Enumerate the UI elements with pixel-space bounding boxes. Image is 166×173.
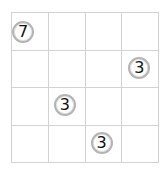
cell-r3-c3[interactable] bbox=[121, 125, 158, 163]
cell-r3-c2[interactable]: 3 bbox=[85, 125, 122, 163]
clue-circle: 3 bbox=[128, 57, 150, 79]
cell-r0-c2[interactable] bbox=[85, 12, 122, 50]
cell-r3-c1[interactable] bbox=[48, 125, 85, 163]
clue-circle: 3 bbox=[54, 94, 76, 116]
cell-r2-c1[interactable]: 3 bbox=[48, 87, 85, 125]
puzzle-board: 7 3 3 3 bbox=[11, 12, 159, 163]
cell-r2-c3[interactable] bbox=[121, 87, 158, 125]
cell-r2-c0[interactable] bbox=[11, 87, 48, 125]
cell-r1-c3[interactable]: 3 bbox=[121, 50, 158, 88]
clue-circle: 7 bbox=[12, 21, 34, 43]
cell-r1-c1[interactable] bbox=[48, 50, 85, 88]
cell-r0-c0[interactable]: 7 bbox=[11, 12, 48, 50]
cell-r1-c2[interactable] bbox=[85, 50, 122, 88]
cell-r0-c1[interactable] bbox=[48, 12, 85, 50]
cell-r3-c0[interactable] bbox=[11, 125, 48, 163]
cell-r0-c3[interactable] bbox=[121, 12, 158, 50]
cell-r2-c2[interactable] bbox=[85, 87, 122, 125]
cell-r1-c0[interactable] bbox=[11, 50, 48, 88]
clue-circle: 3 bbox=[91, 132, 113, 154]
